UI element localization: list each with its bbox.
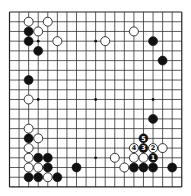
black-stone-icon (24, 27, 33, 36)
white-stone-icon (24, 153, 33, 162)
black-stone: 1 (149, 153, 158, 162)
black-stone (24, 134, 33, 143)
black-stone (24, 173, 33, 182)
white-stone-icon (34, 27, 43, 36)
white-stone (24, 153, 33, 162)
move-number-label: 3 (141, 144, 146, 152)
black-stone-icon (53, 173, 62, 182)
black-stone (24, 27, 33, 36)
black-stone (24, 37, 33, 46)
white-stone-icon (139, 153, 148, 162)
black-stone (158, 56, 167, 65)
white-stone-icon (101, 37, 110, 46)
black-stone-icon (149, 163, 158, 172)
black-stone (24, 76, 33, 85)
black-stone (53, 173, 62, 182)
black-stone: 5 (139, 134, 148, 143)
white-stone: 4 (129, 144, 138, 153)
black-stone-icon (24, 134, 33, 143)
move-number-label: 1 (151, 154, 156, 162)
black-stone-icon (43, 153, 52, 162)
white-stone (158, 144, 167, 153)
white-stone (53, 37, 62, 46)
go-board-diagram: 54321 (0, 0, 191, 196)
white-stone (110, 153, 119, 162)
black-stone-icon (43, 163, 52, 172)
star-point-icon (152, 98, 155, 101)
black-stone-icon (72, 163, 81, 172)
white-stone (24, 144, 33, 153)
white-stone (139, 153, 148, 162)
move-number-label: 4 (132, 144, 137, 152)
black-stone (34, 173, 43, 182)
black-stone (129, 163, 138, 172)
black-stone (149, 163, 158, 172)
black-stone-icon (24, 37, 33, 46)
white-stone-icon (53, 37, 62, 46)
white-stone-icon (24, 124, 33, 133)
move-number-label: 5 (141, 135, 146, 143)
white-stone-icon (34, 163, 43, 172)
white-stone (24, 163, 33, 172)
star-point-icon (94, 156, 97, 159)
white-stone-icon (43, 17, 52, 26)
white-stone-icon (24, 163, 33, 172)
white-stone-icon (110, 153, 119, 162)
black-stone-icon (149, 37, 158, 46)
star-point-icon (37, 40, 40, 43)
white-stone-icon (158, 144, 167, 153)
white-stone (34, 27, 43, 36)
white-stone-icon (34, 134, 43, 143)
black-stone: 3 (139, 144, 148, 153)
white-stone (129, 153, 138, 162)
white-stone (24, 124, 33, 133)
black-stone (34, 46, 43, 55)
white-stone (34, 163, 43, 172)
star-point-icon (37, 98, 40, 101)
white-stone-icon (24, 95, 33, 104)
black-stone-icon (24, 173, 33, 182)
white-stone-icon (43, 173, 52, 182)
white-stone (43, 17, 52, 26)
white-stone-icon (120, 163, 129, 172)
black-stone (43, 153, 52, 162)
white-stone (43, 173, 52, 182)
white-stone-icon (24, 17, 33, 26)
move-number-label: 2 (151, 144, 156, 152)
white-stone: 2 (149, 144, 158, 153)
white-stone (34, 134, 43, 143)
white-stone (120, 163, 129, 172)
star-point-icon (94, 98, 97, 101)
black-stone-icon (34, 153, 43, 162)
black-stone (149, 37, 158, 46)
black-stone (72, 163, 81, 172)
black-stone-icon (129, 163, 138, 172)
black-stone-icon (149, 114, 158, 123)
black-stone (149, 114, 158, 123)
black-stone-icon (34, 46, 43, 55)
black-stone-icon (34, 173, 43, 182)
black-stone (139, 163, 148, 172)
black-stone (34, 153, 43, 162)
white-stone-icon (129, 27, 138, 36)
go-board: 54321 (0, 0, 191, 196)
black-stone-icon (168, 163, 177, 172)
white-stone (101, 37, 110, 46)
black-stone (43, 163, 52, 172)
black-stone-icon (24, 76, 33, 85)
white-stone (24, 95, 33, 104)
white-stone (24, 17, 33, 26)
star-point-icon (94, 40, 97, 43)
white-stone-icon (24, 144, 33, 153)
black-stone-icon (158, 56, 167, 65)
black-stone-icon (139, 163, 148, 172)
black-stone (168, 163, 177, 172)
white-stone-icon (129, 153, 138, 162)
white-stone (129, 27, 138, 36)
